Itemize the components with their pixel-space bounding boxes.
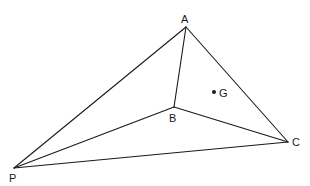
labels-group: A B C P G bbox=[9, 13, 300, 184]
edges-group bbox=[14, 27, 288, 168]
edge-ac bbox=[186, 27, 288, 142]
edge-pc bbox=[14, 142, 288, 168]
label-a: A bbox=[181, 13, 189, 25]
diagram-svg: A B C P G bbox=[0, 0, 310, 186]
edge-pb bbox=[14, 107, 174, 168]
label-p: P bbox=[9, 172, 16, 184]
label-c: C bbox=[292, 136, 300, 148]
edge-bc bbox=[174, 107, 288, 142]
edge-ab bbox=[174, 27, 186, 107]
label-b: B bbox=[169, 112, 176, 124]
edge-pa bbox=[14, 27, 186, 168]
label-g: G bbox=[219, 87, 228, 99]
geometry-diagram: A B C P G bbox=[0, 0, 310, 186]
points-group bbox=[212, 90, 216, 94]
point-g-dot bbox=[212, 90, 216, 94]
